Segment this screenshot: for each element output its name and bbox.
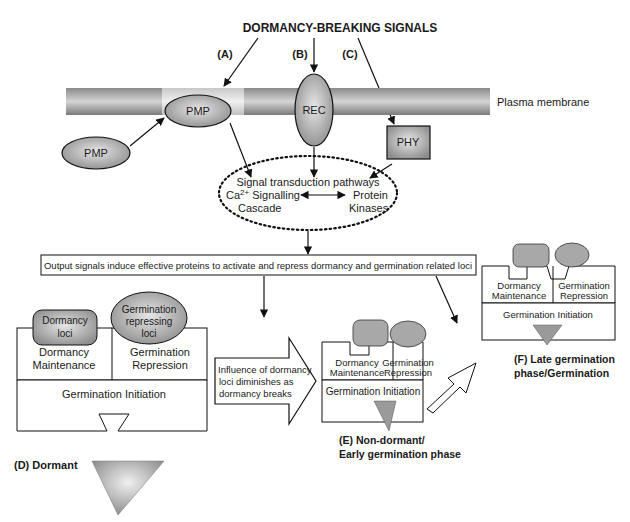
f-germ-rep-loci-blob — [555, 243, 589, 267]
f-stage-label-2: phase/Germination — [514, 367, 609, 379]
e-germ-rep-loci-blob — [390, 321, 426, 347]
f-maint-label-2: Maintenance — [492, 290, 546, 301]
protein-label: Protein — [353, 189, 388, 201]
transition-text-2: loci diminishes as — [219, 376, 294, 387]
dormancy-diagram: DORMANCY-BREAKING SIGNALS (A) (B) (C) Pl… — [0, 0, 630, 522]
e-dormancy-loci-block — [353, 320, 388, 346]
e-stage-label-2: Early germination phase — [339, 448, 461, 460]
f-stage-label-1: (F) Late germination — [514, 353, 615, 365]
ca-signalling-label: Ca2+ Signalling — [226, 188, 300, 201]
f-dormancy-loci-block — [513, 244, 549, 267]
membrane-label: Plasma membrane — [497, 96, 589, 108]
signal-label-c: (C) — [342, 48, 358, 60]
d-maint-label-1: Dormancy — [39, 346, 90, 358]
e-to-f-arrow — [427, 363, 476, 413]
e-initiation-label: Germination Initiation — [326, 386, 421, 397]
f-initiation-label: Germination Initiation — [503, 309, 593, 320]
transition-text-1: Influence of dormancy — [218, 364, 312, 375]
d-rep-label-2: Repression — [132, 359, 188, 371]
title: DORMANCY-BREAKING SIGNALS — [243, 21, 438, 35]
germ-rep-loci-label-3: loci — [141, 328, 156, 339]
output-to-f-arrow — [436, 276, 457, 323]
e-rep-label-2: Repression — [384, 367, 432, 378]
germ-rep-loci-label-1: Germination — [122, 304, 176, 315]
f-rep-label-2: Repression — [560, 290, 608, 301]
dormancy-loci-label: Dormancy — [42, 315, 88, 326]
signal-arrow-a — [224, 38, 258, 86]
d-stage-label: (D) Dormant — [14, 459, 78, 471]
output-signals-text: Output signals induce effective proteins… — [44, 260, 472, 271]
signal-label-b: (B) — [292, 48, 308, 60]
transition-text-3: dormancy breaks — [219, 388, 292, 399]
pmp-lower-label: PMP — [84, 147, 108, 159]
d-rep-label-1: Germination — [130, 346, 190, 358]
germ-rep-loci-label-2: repressing — [126, 316, 173, 327]
rec-label: REC — [302, 104, 325, 116]
cascade-label: Cascade — [238, 202, 281, 214]
pmp-upper-label: PMP — [186, 105, 210, 117]
e-stage-label-1: (E) Non-dormant/ — [339, 434, 425, 446]
plasma-membrane — [66, 88, 490, 115]
d-maint-label-2: Maintenance — [33, 359, 96, 371]
e-maint-label-2: Maintenance — [330, 367, 384, 378]
transduction-title: Signal transduction pathways — [236, 176, 380, 188]
phy-label: PHY — [397, 136, 420, 148]
d-initiation-label: Germination Initiation — [62, 388, 166, 400]
signal-label-a: (A) — [217, 48, 233, 60]
pmp-to-pmp-arrow — [130, 118, 164, 146]
kinases-label: Kinases — [349, 202, 389, 214]
dormancy-loci-label-2: loci — [57, 328, 72, 339]
